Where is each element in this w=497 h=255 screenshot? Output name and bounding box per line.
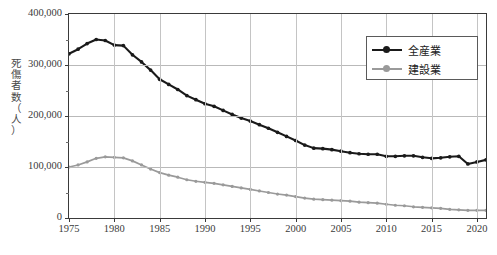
data-point — [303, 143, 307, 147]
x-axis-tick-mark — [341, 218, 342, 222]
data-point — [303, 197, 306, 200]
data-point — [394, 204, 397, 207]
data-point — [94, 38, 98, 42]
data-point — [330, 148, 334, 152]
series-line — [69, 157, 486, 211]
x-axis-tick-label: 1985 — [149, 223, 170, 234]
gridline-vertical — [160, 14, 161, 218]
y-axis-tick-mark — [65, 14, 69, 15]
gridline-vertical — [341, 14, 342, 218]
data-point — [212, 182, 215, 185]
data-point — [376, 202, 379, 205]
gridline-vertical — [205, 14, 206, 218]
y-axis-tick-label: 0 — [57, 211, 62, 222]
legend-swatch-icon — [372, 44, 402, 56]
x-axis-tick-label: 2005 — [330, 223, 351, 234]
data-point — [104, 155, 107, 158]
data-point — [403, 204, 406, 207]
data-point — [357, 201, 360, 204]
y-axis-tick-label: 200,000 — [28, 109, 62, 120]
data-point — [466, 162, 470, 166]
legend: 全産業建設業 — [366, 36, 478, 80]
data-point — [457, 208, 460, 211]
x-axis-tick-mark — [160, 218, 161, 222]
data-point — [167, 83, 171, 87]
data-point — [258, 189, 261, 192]
y-axis-minor-tick-mark — [66, 142, 69, 143]
data-point — [221, 109, 225, 113]
data-point — [285, 193, 288, 196]
x-axis-tick-label: 1990 — [194, 223, 215, 234]
data-point — [122, 44, 126, 48]
data-point — [394, 154, 398, 158]
y-axis-tick-label: 400,000 — [28, 7, 62, 18]
data-point — [412, 154, 416, 158]
legend-item: 全産業 — [372, 40, 472, 59]
x-axis-tick-mark — [432, 218, 433, 222]
data-point — [457, 154, 461, 158]
series-construction — [69, 155, 486, 212]
data-point — [276, 192, 279, 195]
legend-item: 建設業 — [372, 59, 472, 78]
data-point — [176, 176, 179, 179]
x-axis-tick-mark — [250, 218, 251, 222]
data-point — [330, 199, 333, 202]
gridline-vertical — [296, 14, 297, 218]
data-point — [167, 174, 170, 177]
data-point — [149, 68, 153, 72]
data-point — [439, 207, 442, 210]
data-point — [421, 206, 424, 209]
data-point — [95, 157, 98, 160]
data-point — [448, 155, 452, 159]
y-axis-tick-label: 100,000 — [28, 160, 62, 171]
data-point — [276, 130, 280, 134]
data-point — [267, 191, 270, 194]
data-point — [357, 152, 361, 156]
y-axis-tick-mark — [65, 116, 69, 117]
x-axis-tick-mark — [477, 218, 478, 222]
y-axis-tick-mark — [65, 65, 69, 66]
legend-marker-icon — [383, 65, 390, 72]
data-point — [267, 126, 271, 130]
y-axis-title: 死傷者数（人） — [6, 58, 26, 136]
gridline-horizontal — [69, 167, 486, 168]
data-point — [240, 186, 243, 189]
data-point — [103, 39, 107, 43]
y-axis-title-char: ） — [6, 125, 26, 136]
x-axis-tick-label: 1975 — [59, 223, 80, 234]
y-axis-tick-mark — [65, 167, 69, 168]
x-axis-tick-label: 2000 — [285, 223, 306, 234]
data-point — [212, 104, 216, 108]
data-point — [367, 201, 370, 204]
data-point — [131, 159, 134, 162]
data-point — [194, 180, 197, 183]
y-axis-minor-tick-mark — [66, 40, 69, 41]
data-point — [484, 209, 486, 212]
legend-marker-icon — [383, 46, 390, 53]
data-point — [321, 198, 324, 201]
legend-label: 建設業 — [408, 61, 441, 77]
x-axis-tick-mark — [114, 218, 115, 222]
data-point — [85, 42, 89, 46]
gridline-horizontal — [69, 116, 486, 117]
data-point — [185, 178, 188, 181]
data-point — [403, 154, 407, 158]
x-axis-tick-label: 2010 — [376, 223, 397, 234]
gridline-vertical — [250, 14, 251, 218]
data-point — [185, 94, 189, 98]
x-axis-tick-label: 2020 — [466, 223, 487, 234]
x-axis-tick-label: 1995 — [240, 223, 261, 234]
data-point — [258, 123, 262, 127]
chart-figure: 死傷者数（人） 0100,000200,000300,000400,000 19… — [0, 0, 497, 255]
data-point — [176, 88, 180, 92]
x-axis-tick-mark — [386, 218, 387, 222]
x-axis-tick-mark — [296, 218, 297, 222]
data-point — [194, 98, 198, 102]
data-point — [312, 146, 316, 150]
y-axis-tick-label: 300,000 — [28, 58, 62, 69]
y-axis-title-char: 者 — [6, 80, 26, 91]
x-axis-tick-label: 1980 — [104, 223, 125, 234]
x-axis-tick-mark — [69, 218, 70, 222]
data-point — [321, 147, 325, 151]
data-point — [375, 152, 379, 156]
